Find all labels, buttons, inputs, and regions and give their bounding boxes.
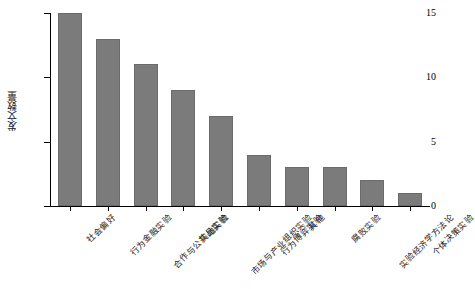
bar (209, 116, 233, 206)
y-tick-mark (44, 142, 50, 143)
x-tick-mark (183, 207, 184, 211)
x-tick-mark (259, 207, 260, 211)
y-axis-title: 发文数量 (2, 55, 24, 167)
x-tick-mark (70, 207, 71, 211)
x-tick-mark (297, 207, 298, 211)
bar (171, 90, 195, 206)
y-tick-label: 15 (398, 8, 436, 18)
x-axis-line (50, 206, 430, 207)
x-category-label: 行为金融实验 (129, 213, 174, 258)
y-axis-line (50, 13, 51, 207)
bar (285, 167, 309, 206)
x-tick-mark (108, 207, 109, 211)
x-category-label: 腐败实验 (350, 213, 382, 245)
y-tick-mark (44, 77, 50, 78)
y-tick-label: 5 (398, 137, 436, 147)
x-tick-mark (410, 207, 411, 211)
y-tick-mark (44, 206, 50, 207)
bar (58, 13, 82, 206)
x-category-label: 实地实验 (199, 213, 231, 245)
bar (398, 193, 422, 206)
x-tick-mark (335, 207, 336, 211)
x-category-label: 市场与产业组织实验 (250, 213, 314, 277)
bar (96, 39, 120, 206)
x-tick-mark (221, 207, 222, 211)
x-category-label: 社会偏好 (85, 213, 117, 245)
bar (134, 64, 158, 206)
y-tick-mark (44, 13, 50, 14)
x-tick-mark (146, 207, 147, 211)
bar (247, 155, 271, 206)
bar (360, 180, 384, 206)
y-tick-label: 10 (398, 72, 436, 82)
x-tick-mark (372, 207, 373, 211)
bar (323, 167, 347, 206)
